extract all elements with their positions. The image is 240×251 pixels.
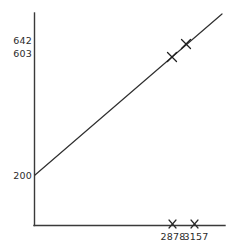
- calibration-chart: 642 603 200 2878 3157: [0, 0, 240, 251]
- x-axis-tick-label-3157: 3157: [184, 231, 209, 242]
- plot-canvas: 642 603 200 2878 3157: [0, 0, 240, 251]
- y-axis-tick-label-200: 200: [13, 170, 32, 181]
- y-axis-tick-label-642: 642: [13, 35, 32, 46]
- x-axis-tick-label-2878: 2878: [161, 231, 186, 242]
- chart-background: [0, 0, 240, 251]
- y-axis-tick-label-603: 603: [13, 48, 32, 59]
